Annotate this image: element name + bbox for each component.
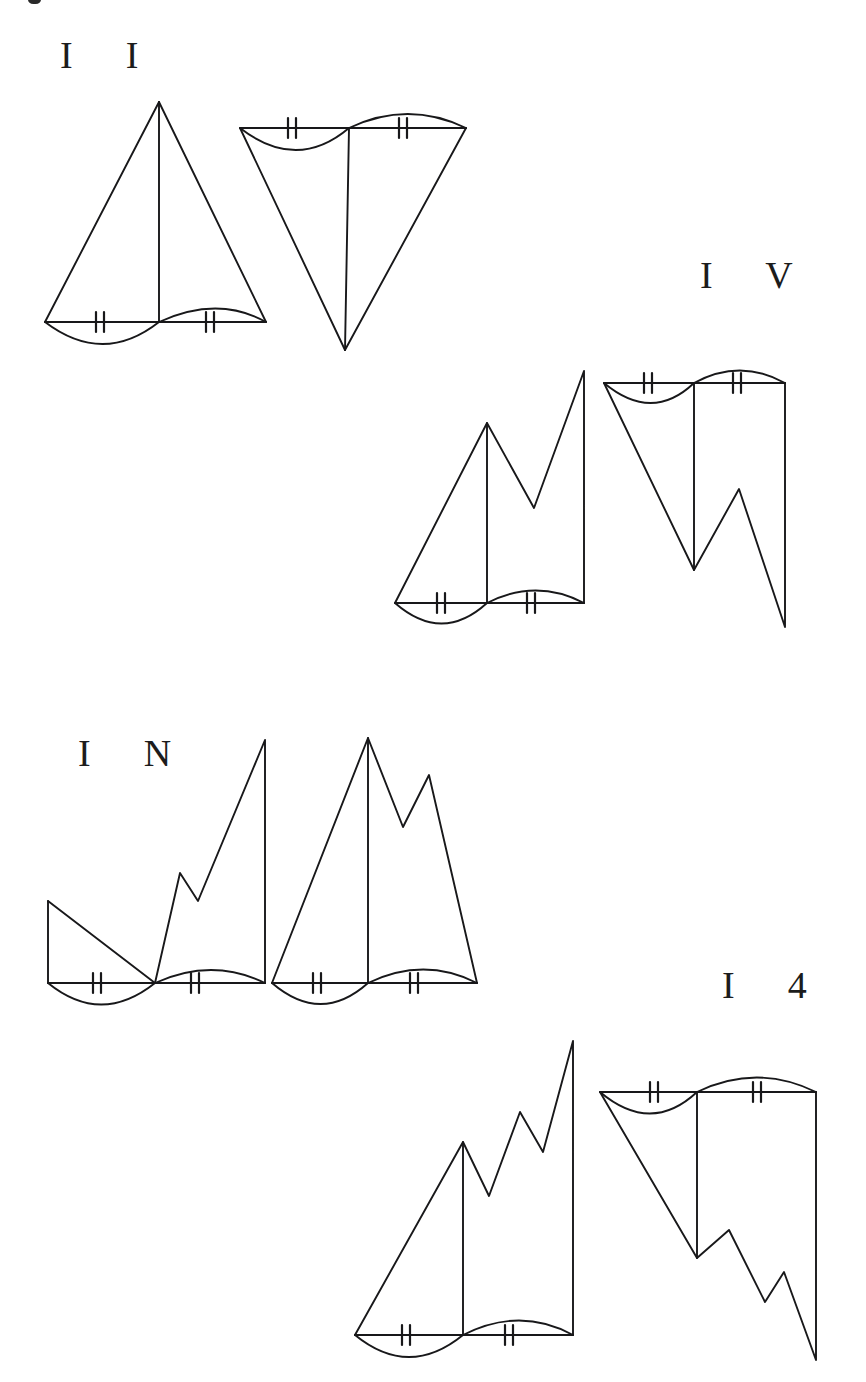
figure-drawing-layer [0,0,866,1382]
double-hash-tick-left [644,373,652,393]
double-hash-tick-left [437,593,445,613]
figure-4-group [355,1041,816,1360]
double-hash-tick-right [191,973,199,993]
figure-3-group [48,738,477,1005]
zigzag-profile [355,1041,573,1335]
figure-3-left-shape [48,740,265,1005]
double-hash-tick-right [206,312,214,332]
double-hash-tick-left [402,1325,410,1345]
double-hash-tick-right [733,373,741,393]
bulging-arc-right [349,114,466,128]
double-hash-tick-left [650,1082,658,1102]
zigzag-profile [600,1092,816,1360]
figure-4-right-shape [600,1078,816,1361]
sagging-arc-left [604,383,694,403]
descending-diagonal [48,901,155,983]
double-hash-tick-right [410,973,418,993]
ink-speck-artifact [28,0,41,4]
double-hash-tick-right [753,1082,761,1102]
sagging-arc-left [600,1092,697,1114]
double-hash-tick-left [313,973,321,993]
triangle-right-side [159,102,266,322]
sagging-arc-left [355,1335,463,1357]
figure-plate: I I I V I N I 4 [0,0,866,1382]
median-line [345,128,349,350]
bulging-arc-right [368,970,477,984]
sagging-arc-left [272,983,368,1004]
figure-2-left-shape [395,371,584,624]
figure-3-right-shape [272,738,477,1004]
double-hash-tick-left [93,973,101,993]
figure-2-group [395,371,785,628]
bulging-arc-right [697,1078,816,1093]
zigzag-profile [272,738,477,983]
triangle-left-side [240,128,345,350]
figure-label-3: I N [78,734,183,772]
figure-1-left-shape [45,102,266,344]
triangle-right-side [345,128,466,350]
bulging-arc-right [463,1321,573,1336]
figure-1-right-shape [240,114,466,350]
bulging-arc-right [155,970,265,983]
sagging-arc-left [240,128,349,150]
zigzag-profile [155,740,265,983]
bulging-arc-right [159,309,266,323]
sagging-arc-left [395,603,487,624]
sagging-arc-left [45,322,159,344]
zigzag-profile [604,383,785,627]
zigzag-profile [395,371,584,603]
figure-4-left-shape [355,1041,573,1357]
double-hash-tick-left [288,118,296,138]
figure-label-1: I I [60,36,150,74]
double-hash-tick-right [527,593,535,613]
double-hash-tick-right [399,118,407,138]
figure-2-right-shape [604,371,785,628]
triangle-left-side [45,102,159,322]
figure-1-group [45,102,466,350]
sagging-arc-left [48,983,155,1005]
bulging-arc-right [487,591,584,604]
bulging-arc-right [694,371,785,384]
figure-label-4: I 4 [722,966,818,1004]
figure-label-2: I V [700,256,804,294]
double-hash-tick-right [505,1325,513,1345]
double-hash-tick-left [96,312,104,332]
